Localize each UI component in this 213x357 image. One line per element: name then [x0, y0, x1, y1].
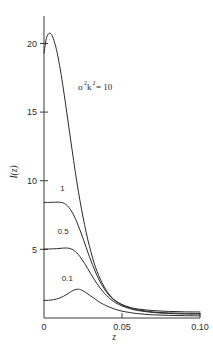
- curve-series-10: [44, 33, 200, 312]
- annotation-sigma-symbol: σ: [78, 82, 83, 92]
- y-axis-title: I(z): [9, 165, 20, 179]
- figure-container: 5101520 00.050.10 10.50.1 σ 2 k 2 = 10 z…: [0, 0, 213, 357]
- line-chart: 5101520 00.050.10 10.50.1 σ 2 k 2 = 10 z…: [0, 0, 213, 357]
- y-tick-label: 15: [27, 107, 37, 117]
- curve-label-0.1: 0.1: [62, 274, 74, 283]
- y-tick-label: 10: [27, 176, 37, 186]
- y-tick-label: 20: [27, 39, 37, 49]
- x-tick-label: 0: [41, 322, 46, 332]
- annotation-k-symbol: k: [87, 82, 92, 92]
- annotation-sigma-k-squared: σ 2 k 2 = 10: [78, 80, 113, 92]
- x-tick-label: 0.10: [191, 322, 209, 332]
- curve-series-1: [44, 202, 200, 313]
- curve-labels: 10.50.1: [57, 184, 73, 283]
- y-axis-ticks: 5101520: [27, 39, 48, 255]
- annotation-value: = 10: [96, 82, 113, 92]
- curve-label-1: 1: [60, 184, 65, 193]
- curve-label-0.5: 0.5: [57, 227, 69, 236]
- x-tick-label: 0.05: [113, 322, 131, 332]
- y-tick-label: 5: [32, 245, 37, 255]
- x-axis-title: z: [111, 332, 116, 342]
